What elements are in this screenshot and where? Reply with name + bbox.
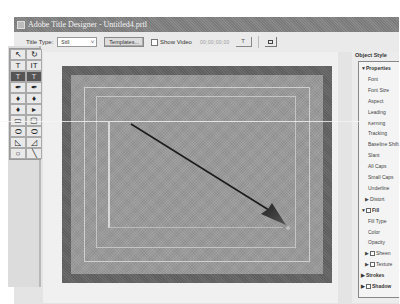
arrowhead-icon: [261, 203, 286, 225]
end-handle: [287, 227, 290, 230]
arrow-line: [131, 124, 272, 212]
